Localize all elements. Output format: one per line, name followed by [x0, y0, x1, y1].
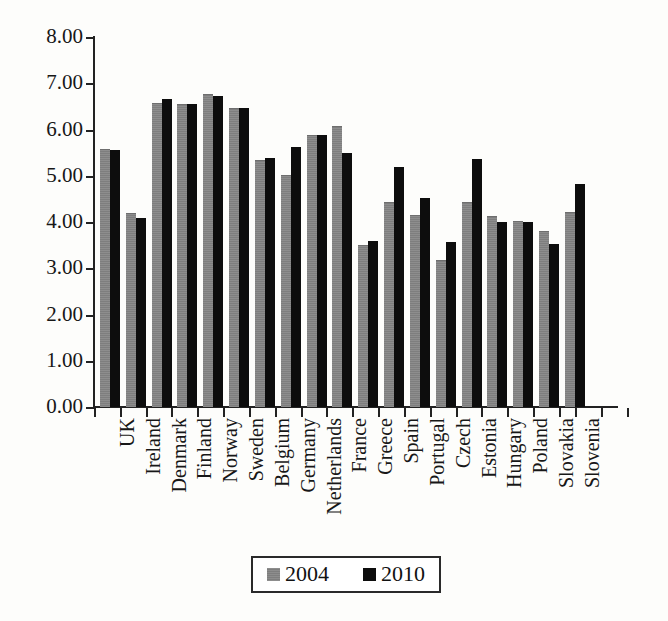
bar-sweden-2010 [239, 108, 249, 407]
x-axis-label-denmark: Denmark [169, 418, 189, 492]
bar-group [306, 135, 328, 407]
bar-netherlands-2004 [307, 135, 317, 407]
y-axis-tick-mark [86, 361, 94, 363]
bar-hungary-2010 [497, 222, 507, 407]
y-axis-tick-label: 7.00 [46, 70, 83, 95]
bar-group [512, 221, 534, 407]
x-axis-label-slovenia: Slovenia [582, 418, 602, 488]
y-axis-tick-mark [86, 315, 94, 317]
bar-czech-2010 [446, 242, 456, 407]
bar-finland-2010 [187, 104, 197, 407]
bar-poland-2004 [513, 221, 523, 407]
bar-uk-2010 [110, 150, 120, 407]
y-axis-tick-label: 8.00 [46, 24, 83, 49]
plot-area: 0.001.002.003.004.005.006.007.008.00 [94, 37, 617, 407]
x-axis-tick-mark [94, 408, 96, 417]
bar-norway-2004 [203, 94, 213, 407]
bar-ireland-2004 [126, 213, 136, 407]
y-axis-tick-mark [86, 83, 94, 85]
bar-uk-2004 [100, 149, 110, 407]
y-axis-tick-label: 6.00 [46, 117, 83, 142]
y-axis-tick-label: 2.00 [46, 302, 83, 327]
x-axis-label-slovakia: Slovakia [556, 418, 576, 488]
bar-ireland-2010 [136, 218, 146, 407]
y-axis-tick-mark [86, 222, 94, 224]
x-axis-label-netherlands: Netherlands [324, 418, 344, 515]
bar-group [486, 216, 508, 407]
bar-denmark-2010 [162, 99, 172, 407]
bar-group [409, 198, 431, 407]
bar-hungary-2004 [487, 216, 497, 407]
x-axis-tick-mark [249, 408, 251, 417]
x-axis-label-norway: Norway [220, 418, 240, 482]
x-axis-tick-mark [601, 408, 603, 417]
bar-group [254, 158, 276, 407]
bar-group [383, 167, 405, 407]
bar-group [461, 159, 483, 407]
bar-group [176, 104, 198, 407]
y-axis-tick-mark [86, 407, 94, 409]
bar-belgium-2004 [255, 160, 265, 407]
x-axis-tick-mark [456, 408, 458, 417]
x-axis-tick-mark [223, 408, 225, 417]
x-axis-tick-mark [507, 408, 509, 417]
bar-sweden-2004 [229, 108, 239, 407]
x-axis-label-estonia: Estonia [479, 418, 499, 478]
y-axis-tick-label: 3.00 [46, 255, 83, 280]
bar-poland-2010 [523, 222, 533, 407]
bar-portugal-2004 [410, 215, 420, 407]
x-axis-tick-mark [575, 408, 577, 417]
bar-czech-2004 [436, 260, 446, 407]
x-axis-tick-mark [627, 408, 629, 417]
bar-denmark-2004 [152, 103, 162, 407]
x-axis-tick-mark [275, 408, 277, 417]
y-axis-tick-label: 1.00 [46, 348, 83, 373]
bar-group [331, 126, 353, 407]
bar-spain-2010 [394, 167, 404, 407]
x-axis-label-poland: Poland [530, 418, 550, 474]
bar-slovenia-2010 [575, 184, 585, 407]
bar-greece-2010 [368, 241, 378, 407]
x-axis-tick-mark [352, 408, 354, 417]
bar-france-2004 [332, 126, 342, 407]
legend-entry-2004: 2004 [267, 563, 329, 585]
bar-greece-2004 [358, 245, 368, 407]
x-axis-tick-mark [171, 408, 173, 417]
bar-estonia-2004 [462, 202, 472, 407]
x-axis-tick-mark [120, 408, 122, 417]
bar-group [125, 213, 147, 407]
x-axis-tick-mark [326, 408, 328, 417]
bar-chart-figure: 0.001.002.003.004.005.006.007.008.00 UKI… [0, 0, 668, 621]
y-axis-tick-mark [86, 130, 94, 132]
bar-netherlands-2010 [317, 135, 327, 407]
bar-estonia-2010 [472, 159, 482, 407]
bar-group [435, 242, 457, 407]
x-axis-label-ireland: Ireland [143, 418, 163, 475]
x-axis-tick-mark [378, 408, 380, 417]
legend-swatch-2004 [267, 568, 280, 581]
bar-france-2010 [342, 153, 352, 407]
bar-group [99, 149, 121, 407]
x-axis-label-france: France [349, 418, 369, 472]
y-axis-tick-mark [86, 37, 94, 39]
chart-legend: 2004 2010 [251, 556, 441, 593]
x-axis-label-germany: Germany [298, 418, 318, 492]
legend-entry-2010: 2010 [363, 563, 425, 585]
x-axis-category-labels: UKIrelandDenmarkFinlandNorwaySwedenBelgi… [94, 418, 617, 538]
x-axis-tick-mark [197, 408, 199, 417]
bar-group [202, 94, 224, 407]
x-axis-tick-mark [481, 408, 483, 417]
x-axis-label-portugal: Portugal [427, 418, 447, 486]
y-axis-tick-label: 0.00 [46, 394, 83, 419]
x-axis-tick-mark [404, 408, 406, 417]
bar-slovakia-2010 [549, 244, 559, 407]
bar-norway-2010 [213, 96, 223, 407]
x-axis-label-spain: Spain [401, 418, 421, 464]
legend-label-2004: 2004 [285, 563, 329, 585]
y-axis-tick-label: 4.00 [46, 209, 83, 234]
x-axis-tick-mark [301, 408, 303, 417]
y-axis-tick-label: 5.00 [46, 163, 83, 188]
bar-group [151, 99, 173, 407]
bar-belgium-2010 [265, 158, 275, 407]
x-axis-tick-mark [430, 408, 432, 417]
